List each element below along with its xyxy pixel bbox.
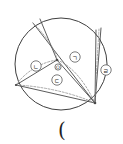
caption-parenthesis: (: [58, 118, 66, 142]
region-label-giyeok: ㄱ: [72, 54, 78, 61]
region-label-nieun: ㄴ: [33, 63, 39, 70]
chord-interior-to-lower-right: [57, 60, 95, 103]
chord-left-to-interior-to-top: [16, 19, 57, 85]
vertex-interior-node: [56, 59, 59, 62]
center-point-label: O: [56, 65, 60, 70]
circle-geometry-figure: O ㄱ ㄴ ㄷ ㄹ (: [0, 0, 123, 144]
dashed-arc-top-left: [33, 23, 57, 60]
region-label-digeut: ㄷ: [54, 77, 60, 84]
vertex-lower-right: [94, 102, 97, 105]
region-label-rieul: ㄹ: [103, 67, 109, 74]
figure-root: O ㄱ ㄴ ㄷ ㄹ (: [0, 0, 123, 144]
vertex-left: [15, 84, 17, 86]
